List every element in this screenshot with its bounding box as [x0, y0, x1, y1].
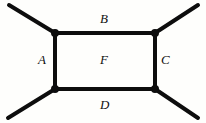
face-label-f: F: [100, 53, 108, 66]
external-leg-top-left: [9, 5, 55, 33]
external-leg-bottom-right: [155, 89, 198, 118]
vertex-bottom-right: [151, 85, 159, 93]
vertex-top-left: [51, 29, 59, 37]
edge-label-d: D: [100, 98, 109, 111]
edge-label-c: C: [161, 53, 170, 66]
external-leg-top-right: [155, 5, 198, 33]
vertex-bottom-left: [51, 85, 59, 93]
vertex-top-right: [151, 29, 159, 37]
edge-label-a: A: [38, 53, 46, 66]
edge-label-b: B: [100, 12, 108, 25]
external-leg-bottom-left: [8, 89, 55, 118]
box-diagram-figure: A B C D F: [0, 0, 206, 123]
